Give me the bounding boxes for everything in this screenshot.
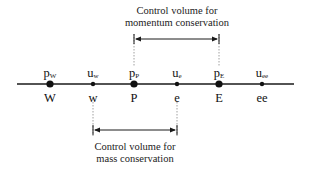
node-name-P: P [131,91,138,105]
momentum-caption-line1: Control volume for [97,5,257,17]
var-label-pW: pW [44,66,57,83]
var-label-pP: pP [129,66,139,83]
var-label-uw: uw [87,66,98,83]
node-name-w: w [88,91,97,105]
momentum-cv-caption: Control volume for momentum conservation [97,5,257,29]
mass-caption-line1: Control volume for [55,141,215,153]
node-name-ee: ee [256,91,267,105]
momentum-caption-line2: momentum conservation [97,17,257,29]
node-name-W: W [44,91,56,105]
var-label-uee: uee [256,66,268,83]
node-name-e: e [174,91,180,105]
var-label-ue: ue [172,66,181,83]
mass-caption-line2: mass conservation [55,153,215,165]
mass-cv-caption: Control volume for mass conservation [55,141,215,165]
node-name-E: E [215,91,223,105]
var-label-pE: pE [214,66,225,83]
